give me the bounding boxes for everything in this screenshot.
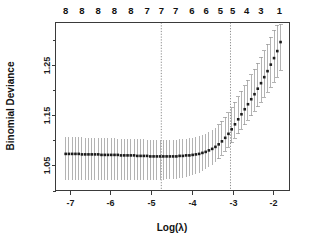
top-axis-nonzero-count: 8 bbox=[63, 5, 68, 16]
data-point bbox=[224, 137, 227, 140]
data-point bbox=[276, 50, 279, 53]
chart-svg: -7-6-5-4-3-21.051.151.25888887776655431 … bbox=[0, 0, 309, 241]
data-point bbox=[230, 128, 233, 131]
data-point bbox=[110, 154, 113, 157]
data-point bbox=[113, 154, 116, 157]
top-axis-nonzero-count: 7 bbox=[144, 5, 149, 16]
data-point bbox=[120, 154, 123, 157]
x-tick-label: -3 bbox=[229, 198, 237, 208]
x-tick-label: -5 bbox=[147, 198, 155, 208]
data-point bbox=[269, 63, 272, 66]
top-axis-nonzero-count: 5 bbox=[230, 5, 236, 16]
data-point bbox=[237, 118, 240, 121]
data-point bbox=[74, 153, 77, 156]
top-axis-nonzero-count: 8 bbox=[96, 5, 101, 16]
data-point bbox=[162, 155, 165, 158]
data-point bbox=[100, 154, 103, 157]
top-axis-nonzero-count: 8 bbox=[112, 5, 117, 16]
x-axis-title: Log(λ) bbox=[157, 222, 188, 233]
data-point bbox=[129, 154, 132, 157]
data-point bbox=[182, 155, 185, 158]
x-tick-label: -2 bbox=[269, 198, 277, 208]
data-point bbox=[103, 154, 106, 157]
data-point bbox=[214, 146, 217, 149]
top-axis-nonzero-count: 3 bbox=[258, 5, 263, 16]
data-point bbox=[169, 155, 172, 158]
data-point bbox=[77, 153, 80, 156]
top-axis-nonzero-count: 5 bbox=[218, 5, 224, 16]
data-point bbox=[84, 153, 87, 156]
y-axis-title: Binomial Deviance bbox=[5, 61, 16, 150]
data-point bbox=[279, 41, 282, 44]
y-tick-label: 1.05 bbox=[42, 157, 52, 175]
data-point bbox=[188, 154, 191, 157]
data-point bbox=[136, 155, 139, 158]
data-point bbox=[178, 155, 181, 158]
data-point bbox=[143, 155, 146, 158]
x-tick-label: -4 bbox=[188, 198, 196, 208]
data-point bbox=[159, 155, 162, 158]
top-axis-nonzero-count: 1 bbox=[277, 5, 283, 16]
data-point bbox=[97, 153, 100, 156]
data-point bbox=[260, 82, 263, 85]
data-point bbox=[90, 153, 93, 156]
data-point bbox=[165, 155, 168, 158]
data-point bbox=[201, 152, 204, 155]
top-axis-nonzero-count: 6 bbox=[203, 5, 208, 16]
top-axis-nonzero-count: 4 bbox=[244, 5, 250, 16]
data-point bbox=[243, 108, 246, 111]
data-point bbox=[107, 154, 110, 157]
data-point bbox=[195, 153, 198, 156]
data-point bbox=[217, 143, 220, 146]
data-point bbox=[263, 76, 266, 79]
data-point bbox=[152, 155, 155, 158]
data-point bbox=[253, 93, 256, 96]
data-point bbox=[68, 153, 71, 156]
y-tick-label: 1.25 bbox=[42, 57, 52, 75]
data-point bbox=[87, 153, 90, 156]
cv-deviance-chart: -7-6-5-4-3-21.051.151.25888887776655431 … bbox=[0, 0, 309, 241]
data-point bbox=[172, 155, 175, 158]
x-tick-label: -7 bbox=[66, 198, 74, 208]
data-point bbox=[247, 103, 250, 106]
data-point bbox=[234, 123, 237, 126]
data-point bbox=[256, 87, 259, 90]
data-point bbox=[191, 154, 194, 157]
data-point bbox=[116, 154, 119, 157]
data-point bbox=[204, 151, 207, 154]
data-point bbox=[221, 140, 224, 143]
data-point bbox=[240, 113, 243, 116]
top-axis-nonzero-count: 7 bbox=[173, 5, 178, 16]
data-point bbox=[273, 57, 276, 60]
data-point bbox=[198, 153, 201, 156]
data-point bbox=[266, 70, 269, 73]
data-point bbox=[175, 155, 178, 158]
data-point bbox=[208, 149, 211, 152]
data-point bbox=[133, 154, 136, 157]
data-point bbox=[94, 153, 97, 156]
data-point bbox=[149, 155, 152, 158]
data-point bbox=[71, 153, 74, 156]
data-point bbox=[64, 153, 67, 156]
data-point bbox=[81, 153, 84, 156]
top-axis-nonzero-count: 7 bbox=[159, 5, 164, 16]
data-point bbox=[139, 155, 142, 158]
top-axis-nonzero-count: 8 bbox=[79, 5, 84, 16]
y-tick-label: 1.15 bbox=[42, 107, 52, 125]
top-axis-nonzero-count: 8 bbox=[128, 5, 133, 16]
data-point bbox=[211, 148, 214, 151]
data-point bbox=[123, 154, 126, 157]
top-axis-nonzero-count: 6 bbox=[189, 5, 194, 16]
x-tick-label: -6 bbox=[106, 198, 114, 208]
data-point bbox=[227, 133, 230, 136]
data-point bbox=[126, 154, 129, 157]
data-point bbox=[146, 155, 149, 158]
data-point bbox=[185, 154, 188, 157]
data-point bbox=[250, 98, 253, 101]
data-point bbox=[156, 155, 159, 158]
